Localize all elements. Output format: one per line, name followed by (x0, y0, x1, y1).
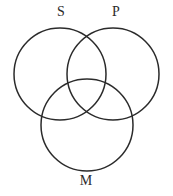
circle-s (14, 28, 106, 120)
venn-diagram-canvas (0, 0, 173, 196)
circle-label-p: P (107, 5, 125, 19)
circle-m (41, 79, 133, 171)
circle-label-s: S (52, 5, 70, 19)
circle-label-m: M (77, 174, 95, 188)
venn-diagram: S P M (0, 0, 173, 196)
circle-p (67, 28, 159, 120)
